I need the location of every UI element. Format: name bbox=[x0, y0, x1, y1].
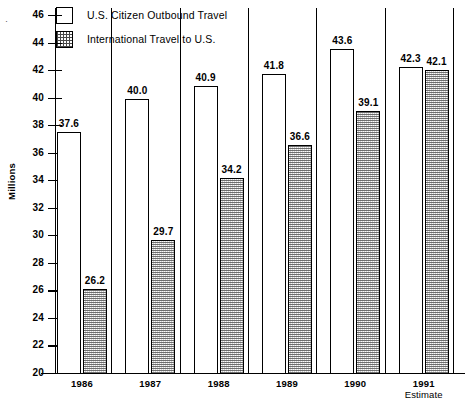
y-axis-tick-label: 22 bbox=[14, 339, 44, 350]
y-axis-tick-label: 30 bbox=[14, 229, 44, 240]
bar-value-label: 36.6 bbox=[281, 131, 319, 142]
group-separator bbox=[180, 8, 181, 374]
bar-1989-series1 bbox=[262, 74, 286, 374]
y-axis-tick-label: 20 bbox=[14, 367, 44, 378]
x-axis-tick-label: 1987 bbox=[120, 378, 180, 389]
bar-value-label: 26.2 bbox=[76, 275, 114, 286]
bar-chart: · U.S. Citizen Outbound Travel Internati… bbox=[0, 0, 465, 403]
x-axis-tick-label: 1989 bbox=[257, 378, 317, 389]
group-separator bbox=[316, 8, 317, 374]
bar-value-label: 40.9 bbox=[187, 72, 225, 83]
bar-value-label: 41.8 bbox=[255, 60, 293, 71]
y-axis-tick-label: 32 bbox=[14, 202, 44, 213]
y-axis-tick-label: 38 bbox=[14, 119, 44, 130]
bar-value-label: 40.0 bbox=[118, 85, 156, 96]
x-axis-tick-label: 1991 bbox=[394, 378, 454, 389]
bar-value-label: 43.6 bbox=[323, 35, 361, 46]
y-axis-tick-label: 40 bbox=[14, 92, 44, 103]
bar-1991-series1 bbox=[399, 67, 423, 374]
y-axis-tick-label: 46 bbox=[14, 9, 44, 20]
y-axis-tick-label: 24 bbox=[14, 312, 44, 323]
bar-1989-series2 bbox=[288, 145, 312, 374]
bar-value-label: 29.7 bbox=[144, 226, 182, 237]
bar-1988-series2 bbox=[220, 178, 244, 374]
x-axis-tick-label: 1990 bbox=[325, 378, 385, 389]
group-separator bbox=[385, 8, 386, 374]
bar-1991-series2 bbox=[425, 70, 449, 374]
bar-1986-series1 bbox=[57, 132, 81, 374]
corner-mark: · bbox=[5, 16, 8, 26]
y-axis-tick-label: 36 bbox=[14, 147, 44, 158]
y-axis-tick-label: 44 bbox=[14, 37, 44, 48]
x-axis-tick-label: 1988 bbox=[189, 378, 249, 389]
group-separator bbox=[248, 8, 249, 374]
y-axis-tick-label: 26 bbox=[14, 284, 44, 295]
bar-value-label: 34.2 bbox=[213, 164, 251, 175]
bar-1990-series2 bbox=[356, 111, 380, 374]
y-axis-tick-label: 34 bbox=[14, 174, 44, 185]
bar-value-label: 37.6 bbox=[50, 118, 88, 129]
group-separator bbox=[111, 8, 112, 374]
plot-area: 37.626.240.029.740.934.241.836.643.639.1… bbox=[55, 8, 465, 374]
bar-value-label: 39.1 bbox=[349, 97, 387, 108]
x-axis-tick-label: 1986 bbox=[52, 378, 112, 389]
bar-value-label: 42.1 bbox=[418, 56, 456, 67]
y-axis-tick-label: 28 bbox=[14, 257, 44, 268]
bar-1987-series2 bbox=[151, 240, 175, 374]
y-axis-tick-label: 42 bbox=[14, 64, 44, 75]
bar-1986-series2 bbox=[83, 289, 107, 374]
bar-1988-series1 bbox=[194, 86, 218, 374]
x-axis-tick-sublabel: Estimate bbox=[394, 389, 454, 400]
